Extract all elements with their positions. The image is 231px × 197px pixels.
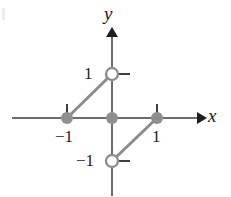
open-point-0-neg1	[106, 155, 118, 167]
coordinate-plane-svg	[0, 0, 231, 197]
x-tick-label-positive-one: 1	[152, 128, 161, 145]
segment-lower-right	[112, 118, 157, 161]
x-axis-label: x	[208, 106, 216, 125]
closed-point-1-0	[151, 112, 163, 124]
open-point-0-1	[106, 68, 118, 80]
y-tick-label-negative-one: −1	[76, 152, 94, 169]
x-axis-arrow-icon	[197, 112, 207, 124]
closed-point-origin	[106, 112, 118, 124]
y-tick-label-positive-one: 1	[84, 65, 93, 82]
graph-figure: y x −1 1 1 −1	[0, 0, 231, 197]
closed-point-neg1-0	[61, 112, 73, 124]
y-axis-label: y	[104, 4, 112, 23]
y-axis-arrow-icon	[106, 27, 118, 37]
x-tick-label-negative-one: −1	[55, 128, 73, 145]
